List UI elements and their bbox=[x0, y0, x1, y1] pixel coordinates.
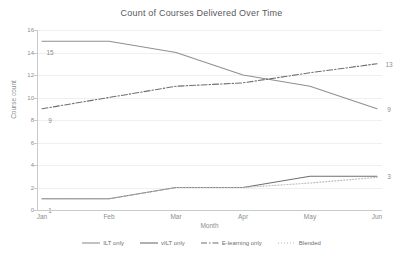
y-tick-mark bbox=[34, 165, 37, 166]
legend-label: ILT only bbox=[103, 240, 124, 246]
chart-container: Count of Courses Delivered Over Time 159… bbox=[0, 0, 403, 268]
series-layer bbox=[37, 30, 382, 210]
data-point-label: 3 bbox=[387, 173, 391, 180]
chart-title: Count of Courses Delivered Over Time bbox=[0, 8, 403, 18]
legend-item[interactable]: Blended bbox=[278, 240, 321, 246]
x-tick-label: Apr bbox=[238, 213, 248, 220]
series-line bbox=[42, 41, 377, 109]
legend-line-icon bbox=[82, 240, 100, 246]
y-tick-label: 14 bbox=[8, 50, 34, 56]
series-line bbox=[42, 177, 377, 198]
y-tick-label: 0 bbox=[8, 207, 34, 213]
y-tick-mark bbox=[34, 30, 37, 31]
y-tick-mark bbox=[34, 120, 37, 121]
y-tick-mark bbox=[34, 53, 37, 54]
y-axis-spine bbox=[37, 30, 38, 211]
data-point-label: 9 bbox=[48, 116, 52, 123]
legend-label: vILT only bbox=[161, 240, 185, 246]
x-axis-label: Month bbox=[37, 222, 382, 229]
y-tick-mark bbox=[34, 210, 37, 211]
x-tick-label: Mar bbox=[170, 213, 181, 220]
legend-line-icon bbox=[201, 240, 219, 246]
y-tick-mark bbox=[34, 75, 37, 76]
y-tick-mark bbox=[34, 188, 37, 189]
data-point-label: 13 bbox=[385, 60, 392, 67]
legend-label: Blended bbox=[299, 240, 321, 246]
legend-line-icon bbox=[278, 240, 296, 246]
x-tick-label: Feb bbox=[103, 213, 114, 220]
x-axis-spine bbox=[37, 210, 382, 211]
y-axis-ticks: 0246810121416 bbox=[3, 30, 34, 211]
y-tick-label: 16 bbox=[8, 27, 34, 33]
legend-line-icon bbox=[140, 240, 158, 246]
chart-legend: ILT onlyvILT onlyE-learning onlyBlended bbox=[0, 240, 403, 246]
y-tick-mark bbox=[34, 143, 37, 144]
legend-item[interactable]: E-learning only bbox=[201, 240, 262, 246]
data-point-label: 9 bbox=[387, 105, 391, 112]
legend-label: E-learning only bbox=[222, 240, 262, 246]
data-point-label: 15 bbox=[46, 49, 53, 56]
y-tick-label: 2 bbox=[8, 185, 34, 191]
y-tick-mark bbox=[34, 98, 37, 99]
x-tick-label: Jan bbox=[37, 213, 47, 220]
y-tick-label: 4 bbox=[8, 162, 34, 168]
plot-area: 15913913 bbox=[37, 30, 382, 210]
legend-item[interactable]: ILT only bbox=[82, 240, 124, 246]
series-line bbox=[42, 64, 377, 109]
y-axis-label: Course count bbox=[10, 65, 17, 135]
x-tick-label: May bbox=[304, 213, 316, 220]
y-tick-label: 6 bbox=[8, 140, 34, 146]
legend-item[interactable]: vILT only bbox=[140, 240, 185, 246]
x-tick-label: Jun bbox=[372, 213, 382, 220]
